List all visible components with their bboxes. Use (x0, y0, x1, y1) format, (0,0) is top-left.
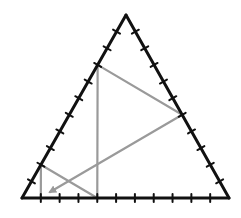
triangle-diagram (0, 0, 241, 218)
tick-marks (28, 30, 223, 202)
reflection-path (41, 65, 182, 198)
triangle-side-right (126, 15, 229, 198)
triangle-side-left (22, 15, 126, 198)
triangle (22, 15, 229, 198)
path-segment-arrow (50, 115, 182, 192)
